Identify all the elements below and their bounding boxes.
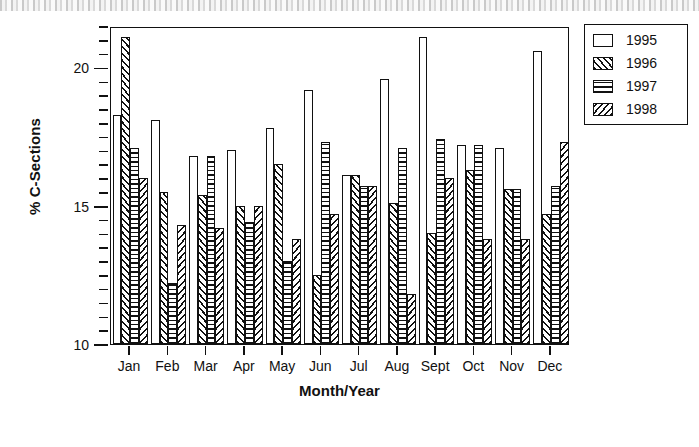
bar-group-sept: [419, 28, 454, 344]
legend-item-1995: 1995: [593, 32, 681, 48]
y-axis-title: % C-Sections: [26, 87, 43, 247]
bar-jan-1997: [130, 148, 139, 344]
bar-jan-1996: [121, 37, 130, 344]
y-axis-minor-tick: [99, 54, 108, 56]
bar-group-aug: [380, 28, 415, 344]
legend-item-1997: 1997: [593, 78, 681, 94]
x-axis-tick: [243, 346, 245, 355]
y-axis-major-tick: [94, 206, 108, 208]
bar-apr-1997: [245, 222, 254, 344]
bar-jan-1995: [113, 115, 122, 345]
y-axis-minor-tick: [99, 192, 108, 194]
y-axis-minor-tick: [99, 151, 108, 153]
bar-group-nov: [495, 28, 530, 344]
x-axis-tick-label-apr: Apr: [233, 358, 255, 374]
legend-label-1997: 1997: [626, 78, 657, 94]
y-axis-tick-label: 10: [55, 337, 89, 353]
x-axis-tick: [511, 346, 513, 355]
x-axis-tick-label-feb: Feb: [155, 358, 179, 374]
x-axis-tick-label-sept: Sept: [421, 358, 450, 374]
y-axis-minor-tick: [99, 82, 108, 84]
y-axis-minor-tick: [99, 137, 108, 139]
bar-jun-1996: [313, 275, 322, 344]
c-section-bar-chart-figure: % C-Sections 101520 JanFebMarAprMayJunJu…: [0, 0, 699, 447]
bar-may-1997: [283, 261, 292, 344]
bar-mar-1998: [215, 228, 224, 344]
bar-dec-1998: [560, 142, 569, 344]
bar-dec-1996: [542, 214, 551, 344]
x-axis-tick: [473, 346, 475, 355]
x-axis-tick: [358, 346, 360, 355]
y-axis-minor-tick: [99, 247, 108, 249]
bar-dec-1997: [551, 186, 560, 344]
bar-sept-1998: [445, 178, 454, 344]
bar-group-jun: [304, 28, 339, 344]
bar-jan-1998: [139, 178, 148, 344]
legend-label-1996: 1996: [626, 55, 657, 71]
x-axis-tick: [205, 346, 207, 355]
y-axis-major-tick: [94, 68, 108, 70]
y-axis-minor-tick: [99, 95, 108, 97]
bar-sept-1997: [436, 139, 445, 344]
bar-group-may: [266, 28, 301, 344]
x-axis-tick: [167, 346, 169, 355]
bar-oct-1996: [466, 170, 475, 344]
bar-dec-1995: [533, 51, 542, 344]
y-axis-minor-tick: [99, 234, 108, 236]
bar-nov-1996: [504, 189, 513, 344]
bar-aug-1998: [407, 294, 416, 344]
y-axis-minor-tick: [99, 289, 108, 291]
bar-nov-1995: [495, 148, 504, 344]
x-axis-tick: [281, 346, 283, 355]
y-axis-tick-label: 15: [55, 199, 89, 215]
bar-apr-1996: [236, 206, 245, 344]
x-axis-tick-label-mar: Mar: [194, 358, 218, 374]
legend-swatch-1998: [593, 103, 613, 116]
bar-jun-1995: [304, 90, 313, 344]
x-axis-tick-label-aug: Aug: [384, 358, 409, 374]
y-axis-tick-label: 20: [55, 60, 89, 76]
legend: 1995199619971998: [584, 24, 688, 125]
bar-mar-1995: [189, 156, 198, 344]
legend-label-1998: 1998: [626, 101, 657, 117]
x-axis-tick: [396, 346, 398, 355]
x-axis-tick: [128, 346, 130, 355]
x-axis-tick: [549, 346, 551, 355]
y-axis-minor-tick: [99, 317, 108, 319]
bar-oct-1998: [483, 239, 492, 344]
bar-feb-1996: [160, 192, 169, 344]
y-axis-minor-tick: [99, 109, 108, 111]
bar-group-jul: [342, 28, 377, 344]
bar-jul-1998: [368, 186, 377, 344]
y-axis-minor-tick: [99, 220, 108, 222]
bar-apr-1995: [227, 150, 236, 344]
y-axis-minor-tick: [99, 275, 108, 277]
bar-may-1996: [274, 164, 283, 344]
legend-item-1996: 1996: [593, 55, 681, 71]
bar-oct-1995: [457, 145, 466, 344]
bar-jul-1997: [360, 186, 369, 344]
bar-aug-1997: [398, 148, 407, 344]
bar-group-oct: [457, 28, 492, 344]
legend-label-1995: 1995: [626, 32, 657, 48]
x-axis-tick-label-nov: Nov: [499, 358, 524, 374]
bar-feb-1995: [151, 120, 160, 344]
x-axis-tick-label-oct: Oct: [462, 358, 484, 374]
bar-nov-1997: [513, 189, 522, 344]
x-axis-tick-label-jan: Jan: [118, 358, 141, 374]
bar-mar-1997: [207, 156, 216, 344]
y-axis-minor-tick: [99, 26, 108, 28]
y-axis-minor-tick: [99, 261, 108, 263]
legend-item-1998: 1998: [593, 101, 681, 117]
bar-jul-1996: [351, 175, 360, 344]
legend-swatch-1995: [593, 34, 613, 47]
bar-group-jan: [113, 28, 148, 344]
bar-group-dec: [533, 28, 568, 344]
bar-may-1995: [266, 128, 275, 344]
bar-aug-1995: [380, 79, 389, 344]
legend-swatch-1997: [593, 80, 613, 93]
y-axis-minor-tick: [99, 164, 108, 166]
bar-sept-1996: [427, 233, 436, 344]
x-axis-tick-label-jun: Jun: [309, 358, 332, 374]
y-axis-minor-tick: [99, 123, 108, 125]
